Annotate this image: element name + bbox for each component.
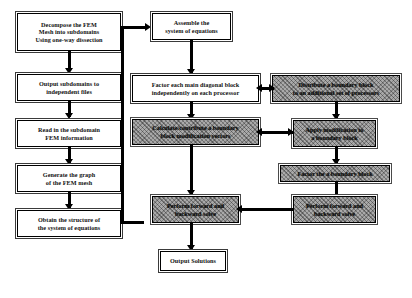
node-output-solutions: Output Solutions <box>160 251 226 271</box>
node-calculate-modification-line-2: block modification vectors <box>161 132 231 140</box>
feedback-segment-vertical <box>121 26 124 224</box>
node-read-subdomain: Read in the subdomain FEM information <box>17 120 121 147</box>
arrowhead-right-solve-to-mid-solve <box>236 205 242 213</box>
node-output-solutions-line-1: Output Solutions <box>170 257 216 265</box>
node-assemble-line-2: system of equations <box>165 27 218 35</box>
connector-calculate-to-solve <box>190 145 193 194</box>
node-obtain-structure-line-1: Obtain the structure of <box>38 216 100 224</box>
node-assemble: Assemble the system of equations <box>152 13 231 40</box>
node-perform-solve-mid: Perform forward and backward solve <box>152 196 239 223</box>
node-distribute-block: Distribute a boundary block to an additi… <box>272 75 400 102</box>
node-factor-diagonal-line-1: Factor each main diagonal block <box>152 81 240 89</box>
node-obtain-structure-line-2: the system of equations <box>38 224 101 232</box>
feedback-segment-horizontal-upper <box>121 26 147 29</box>
node-assemble-line-1: Assemble the <box>174 19 210 27</box>
feedback-segment-horizontal-lower <box>121 221 144 224</box>
node-perform-solve-right: Perform forward and backward solve <box>293 196 376 223</box>
node-factor-diagonal-line-2: independently on each processor <box>152 89 240 97</box>
node-calculate-modification-line-1: Calculate/contribute a boundary <box>152 124 238 132</box>
node-read-subdomain-line-1: Read in the subdomain <box>38 126 100 134</box>
node-apply-modification: Apply modification to a boundary block <box>293 120 376 147</box>
node-obtain-structure: Obtain the structure of the system of eq… <box>17 210 121 237</box>
node-output-subdomains-line-1: Output subdomains to <box>39 80 99 88</box>
node-factor-boundary: Factor the a boundary block <box>280 165 390 182</box>
node-perform-solve-right-line-2: backward solve <box>314 210 355 218</box>
node-generate-graph: Generate the graph of the FEM mesh <box>17 165 121 192</box>
node-distribute-block-line-2: to an additional set of processors <box>293 89 379 97</box>
node-factor-diagonal: Factor each main diagonal block independ… <box>132 75 259 102</box>
node-decompose: Decompose the FEM Mesh into subdomains U… <box>17 13 121 51</box>
node-decompose-line-1: Decompose the FEM <box>41 21 97 29</box>
node-distribute-block-line-1: Distribute a boundary block <box>299 81 374 89</box>
node-perform-solve-right-line-1: Perform forward and <box>306 202 363 210</box>
node-perform-solve-mid-line-1: Perform forward and <box>167 202 224 210</box>
node-perform-solve-mid-line-2: backward solve <box>175 210 216 218</box>
node-read-subdomain-line-2: FEM information <box>45 134 93 142</box>
arrowhead-apply-to-calculate <box>256 128 262 136</box>
flowchart-canvas: Decompose the FEM Mesh into subdomains U… <box>0 0 412 298</box>
node-output-subdomains-line-2: independent files <box>46 88 92 96</box>
node-generate-graph-line-1: Generate the graph <box>43 171 95 179</box>
arrowhead-output-to-read <box>65 113 73 119</box>
node-output-subdomains: Output subdomains to independent files <box>17 74 121 101</box>
node-factor-boundary-line-1: Factor the a boundary block <box>297 170 372 178</box>
node-apply-modification-line-2: a boundary block <box>311 134 357 142</box>
arrowhead-factor-to-distribute <box>269 84 275 92</box>
node-decompose-line-3: Using one-way dissection <box>35 36 102 44</box>
arrowhead-feedback-to-assemble <box>145 23 151 31</box>
node-decompose-line-2: Mesh into subdomains <box>39 28 100 36</box>
node-generate-graph-line-2: of the FEM mesh <box>46 179 92 187</box>
connector-right-solve-to-mid-solve <box>242 208 294 211</box>
node-calculate-modification: Calculate/contribute a boundary block mo… <box>132 119 259 145</box>
arrowhead-calculate-to-apply <box>288 128 294 136</box>
arrowhead-distribute-to-factor <box>256 84 262 92</box>
node-apply-modification-line-1: Apply modification to <box>306 126 364 134</box>
